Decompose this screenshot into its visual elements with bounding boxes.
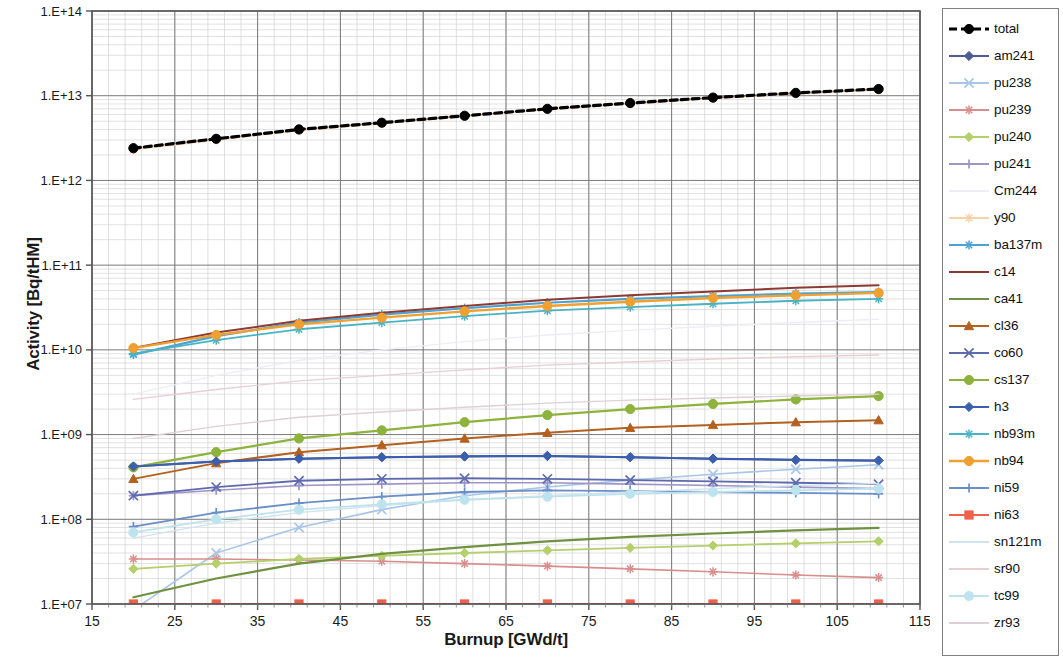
legend-label: am241 (994, 48, 1035, 63)
legend-item-nb93m[interactable]: nb93m (943, 420, 1058, 447)
legend-label: c14 (994, 264, 1015, 279)
legend-label: pu239 (994, 102, 1031, 117)
legend-label: h3 (994, 399, 1009, 414)
legend-label: tc99 (994, 588, 1019, 603)
x-axis-tick-labels: 152535455565758595105115 (84, 613, 930, 629)
x-tick-label: 55 (415, 613, 431, 629)
legend-swatch-am241-icon (948, 47, 990, 65)
legend-item-c14[interactable]: c14 (943, 258, 1058, 285)
legend-item-am241[interactable]: am241 (943, 42, 1058, 69)
x-tick-label: 25 (167, 613, 183, 629)
y-tick-label: 1.E+14 (40, 4, 82, 19)
legend-item-ca41[interactable]: ca41 (943, 285, 1058, 312)
legend-label: ca41 (994, 291, 1023, 306)
plot-svg-container: 1.E+071.E+081.E+091.E+101.E+111.E+121.E+… (0, 0, 930, 660)
y-axis-tick-labels: 1.E+071.E+081.E+091.E+101.E+111.E+121.E+… (40, 4, 82, 612)
legend-label: ni63 (994, 507, 1019, 522)
y-tick-label: 1.E+08 (40, 512, 82, 527)
legend-item-co60[interactable]: co60 (943, 339, 1058, 366)
legend-swatch-ba137m-icon (948, 236, 990, 254)
x-tick-label: 115 (909, 613, 930, 629)
legend-item-pu239[interactable]: pu239 (943, 96, 1058, 123)
legend-label: zr93 (994, 615, 1020, 630)
x-tick-label: 35 (250, 613, 266, 629)
legend-item-zr93[interactable]: zr93 (943, 609, 1058, 636)
legend-swatch-Cm244-icon (948, 182, 990, 200)
x-tick-label: 75 (581, 613, 597, 629)
legend-item-cl36[interactable]: cl36 (943, 312, 1058, 339)
legend-swatch-co60-icon (948, 344, 990, 362)
chart-legend: totalam241pu238pu239pu240pu241Cm244y90ba… (942, 8, 1059, 656)
legend-label: sr90 (994, 561, 1020, 576)
legend-label: y90 (994, 210, 1015, 225)
legend-swatch-ca41-icon (948, 290, 990, 308)
y-tick-label: 1.E+11 (41, 258, 82, 273)
legend-item-Cm244[interactable]: Cm244 (943, 177, 1058, 204)
legend-label: pu240 (994, 129, 1031, 144)
legend-swatch-sr90-icon (948, 560, 990, 578)
legend-label: total (994, 21, 1019, 36)
legend-item-pu238[interactable]: pu238 (943, 69, 1058, 96)
legend-label: pu241 (994, 156, 1031, 171)
legend-swatch-cs137-icon (948, 371, 990, 389)
legend-swatch-pu240-icon (948, 128, 990, 146)
chart-page: 1.E+071.E+081.E+091.E+101.E+111.E+121.E+… (0, 0, 1063, 660)
legend-swatch-c14-icon (948, 263, 990, 281)
y-tick-label: 1.E+10 (40, 342, 82, 357)
x-axis-title: Burnup [GWd/t] (92, 630, 920, 650)
legend-label: pu238 (994, 75, 1031, 90)
legend-item-ba137m[interactable]: ba137m (943, 231, 1058, 258)
legend-swatch-nb93m-icon (948, 425, 990, 443)
legend-item-h3[interactable]: h3 (943, 393, 1058, 420)
legend-label: ba137m (994, 237, 1042, 252)
legend-swatch-zr93-icon (948, 614, 990, 632)
x-tick-label: 85 (664, 613, 680, 629)
legend-item-pu241[interactable]: pu241 (943, 150, 1058, 177)
legend-swatch-tc99-icon (948, 587, 990, 605)
legend-item-sr90[interactable]: sr90 (943, 555, 1058, 582)
legend-swatch-y90-icon (948, 209, 990, 227)
legend-item-nb94[interactable]: nb94 (943, 447, 1058, 474)
legend-swatch-pu238-icon (948, 74, 990, 92)
y-tick-label: 1.E+09 (40, 427, 82, 442)
chart-plot-area: 1.E+071.E+081.E+091.E+101.E+111.E+121.E+… (0, 0, 930, 660)
legend-swatch-ni63-icon (948, 506, 990, 524)
legend-item-pu240[interactable]: pu240 (943, 123, 1058, 150)
legend-swatch-sn121m-icon (948, 533, 990, 551)
line-chart-svg: 1.E+071.E+081.E+091.E+101.E+111.E+121.E+… (0, 0, 930, 660)
legend-swatch-ni59-icon (948, 479, 990, 497)
legend-item-ni63[interactable]: ni63 (943, 501, 1058, 528)
legend-item-ni59[interactable]: ni59 (943, 474, 1058, 501)
legend-swatch-pu239-icon (948, 101, 990, 119)
legend-swatch-total-icon (948, 20, 990, 38)
legend-label: Cm244 (994, 183, 1037, 198)
x-tick-label: 95 (747, 613, 763, 629)
y-tick-label: 1.E+07 (40, 597, 82, 612)
x-tick-label: 15 (84, 613, 100, 629)
legend-item-total[interactable]: total (943, 15, 1058, 42)
legend-swatch-cl36-icon (948, 317, 990, 335)
legend-label: cs137 (994, 372, 1030, 387)
legend-item-cs137[interactable]: cs137 (943, 366, 1058, 393)
legend-label: sn121m (994, 534, 1041, 549)
legend-label: co60 (994, 345, 1023, 360)
legend-label: cl36 (994, 318, 1018, 333)
legend-item-tc99[interactable]: tc99 (943, 582, 1058, 609)
x-tick-label: 65 (498, 613, 514, 629)
y-tick-label: 1.E+13 (40, 88, 82, 103)
legend-label: ni59 (994, 480, 1019, 495)
y-tick-label: 1.E+12 (40, 173, 82, 188)
x-tick-label: 105 (826, 613, 850, 629)
legend-swatch-nb94-icon (948, 452, 990, 470)
legend-label: nb93m (994, 426, 1035, 441)
legend-swatch-h3-icon (948, 398, 990, 416)
legend-label: nb94 (994, 453, 1024, 468)
y-axis-title: Activity [Bq/tHM] (24, 184, 44, 424)
legend-swatch-pu241-icon (948, 155, 990, 173)
legend-item-sn121m[interactable]: sn121m (943, 528, 1058, 555)
x-tick-label: 45 (333, 613, 349, 629)
legend-item-y90[interactable]: y90 (943, 204, 1058, 231)
